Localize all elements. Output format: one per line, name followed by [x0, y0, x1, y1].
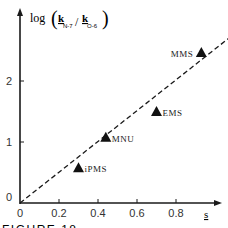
x-tick-label: 0.4	[90, 207, 105, 219]
y-tick-label: 1	[6, 136, 12, 148]
triangle-marker-icon	[151, 106, 162, 116]
x-ticks: 00.20.40.60.8	[17, 199, 184, 219]
data-points: iPMSMNUEMSMMS	[73, 47, 207, 174]
y-tick-label: 0	[6, 191, 12, 203]
scatter-chart: 012 00.20.40.60.8 iPMSMNUEMSMMS log ( k …	[0, 0, 228, 228]
x-tick-label: 0.2	[51, 207, 66, 219]
ylabel-slash: /	[75, 15, 79, 29]
ylabel-prefix: log	[30, 11, 45, 25]
y-axis-arrow-icon	[17, 8, 23, 16]
x-tick-label: 0	[17, 207, 23, 219]
data-point: MNU	[100, 132, 134, 144]
point-label: iPMS	[85, 164, 108, 174]
figure-caption: FIGURE 18	[2, 223, 78, 228]
point-label: MMS	[171, 49, 194, 59]
y-ticks: 012	[6, 75, 24, 203]
triangle-marker-icon	[100, 132, 111, 142]
point-label: MNU	[112, 134, 135, 144]
x-tick-label: 0.6	[129, 207, 144, 219]
data-point: iPMS	[73, 162, 107, 174]
data-point: MMS	[171, 47, 207, 59]
x-axis-label: s	[204, 208, 208, 220]
y-axis-label: log ( k N-7 / k O-6 )	[30, 7, 109, 30]
x-tick-label: 0.8	[168, 207, 183, 219]
y-tick-label: 2	[6, 75, 12, 87]
ylabel-close-paren: )	[102, 7, 109, 30]
ylabel-numerator-sub: N-7	[63, 23, 73, 29]
ylabel-open-paren: (	[51, 7, 58, 30]
data-point: EMS	[151, 106, 183, 118]
triangle-marker-icon	[73, 162, 84, 172]
triangle-marker-icon	[196, 47, 207, 57]
x-axis-arrow-icon	[214, 200, 222, 206]
point-label: EMS	[163, 108, 183, 118]
ylabel-denominator-sub: O-6	[87, 23, 98, 29]
fit-line	[20, 38, 228, 203]
